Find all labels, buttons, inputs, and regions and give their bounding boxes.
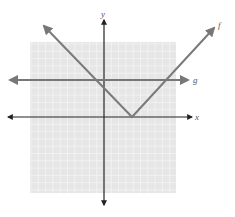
graph-canvas: y x g f xyxy=(0,0,235,217)
g-label: g xyxy=(193,75,198,85)
x-axis-label: x xyxy=(194,112,199,122)
f-label: f xyxy=(218,20,222,30)
y-axis-label: y xyxy=(100,9,105,19)
